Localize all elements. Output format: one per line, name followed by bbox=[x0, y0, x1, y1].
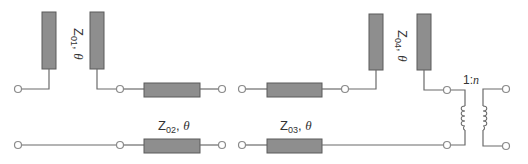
label-z03: Z03, θ bbox=[280, 118, 312, 135]
terminal-input-top bbox=[15, 86, 22, 93]
wire-stub1-to-terminal bbox=[18, 69, 49, 89]
terminal-input-bottom bbox=[15, 142, 22, 149]
series-line-z03-top bbox=[267, 83, 322, 97]
series-line-z02-bottom bbox=[144, 139, 200, 153]
series-line-z02-top bbox=[144, 83, 200, 97]
stub-z04-right bbox=[417, 14, 431, 70]
wire bbox=[483, 89, 506, 106]
terminal-node bbox=[219, 142, 226, 149]
label-z04: Z04, θ bbox=[393, 30, 410, 62]
terminal-node bbox=[117, 142, 124, 149]
wire-stub3 bbox=[345, 70, 376, 89]
label-z02: Z02, θ bbox=[158, 118, 190, 135]
terminal-node bbox=[444, 87, 451, 94]
terminal-node bbox=[219, 86, 226, 93]
terminal-node bbox=[342, 86, 349, 93]
svg-text:Z01, θ: Z01, θ bbox=[69, 28, 86, 60]
terminal-output-bottom bbox=[503, 143, 510, 150]
label-z01: Z01, θ bbox=[69, 28, 86, 60]
terminal-node bbox=[239, 142, 246, 149]
stub-z04-left bbox=[369, 14, 383, 70]
stub-z01-right bbox=[90, 12, 104, 69]
circuit-diagram: Z01, θ Z02, θ Z03, θ Z04, θ 1:n bbox=[0, 0, 528, 164]
secondary-coil-icon bbox=[483, 106, 487, 130]
label-transformer-ratio: 1:n bbox=[463, 73, 479, 87]
stub-z01-left bbox=[42, 12, 56, 69]
terminal-node bbox=[117, 86, 124, 93]
wire-stub2-to-node bbox=[97, 69, 120, 89]
terminal-node bbox=[444, 142, 451, 149]
svg-text:Z04, θ: Z04, θ bbox=[393, 30, 410, 62]
terminal-node bbox=[239, 86, 246, 93]
wire-stub4 bbox=[424, 70, 447, 90]
terminal-output-top bbox=[503, 86, 510, 93]
wire bbox=[483, 130, 506, 146]
series-line-z03-bottom bbox=[267, 139, 322, 153]
primary-coil-icon bbox=[461, 106, 465, 130]
